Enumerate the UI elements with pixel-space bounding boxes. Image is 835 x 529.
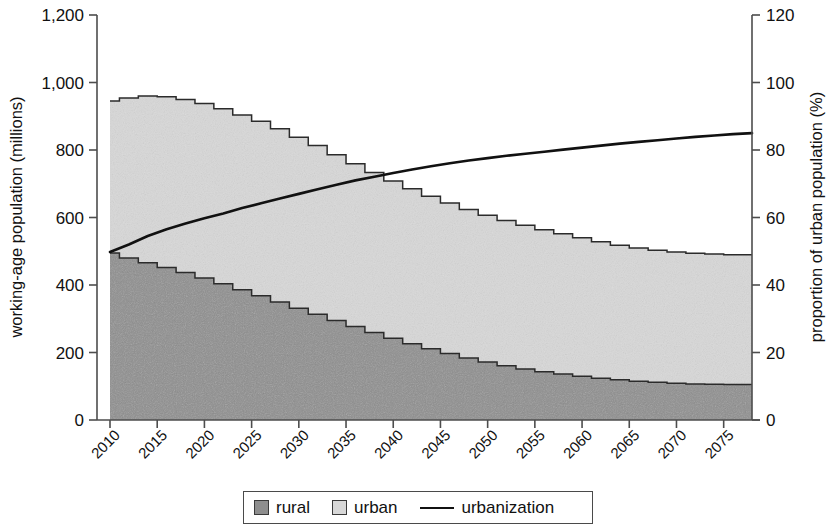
y-axis-right-tick-label: 80 xyxy=(766,141,785,160)
x-axis-tick-label: 2035 xyxy=(324,426,360,462)
y-axis-left: 02004006008001,0001,200 xyxy=(41,6,97,430)
y-axis-left-tick-label: 800 xyxy=(56,141,84,160)
chart-legend: rural urban urbanization xyxy=(243,491,593,524)
y-axis-left-tick-label: 0 xyxy=(75,411,84,430)
legend-label-urbanization: urbanization xyxy=(462,498,555,518)
x-axis-tick-label: 2075 xyxy=(701,426,737,462)
x-axis-tick-label: 2060 xyxy=(560,426,596,462)
legend-swatch-rural-icon xyxy=(254,500,269,515)
x-axis-tick-label: 2040 xyxy=(371,426,407,462)
x-axis-tick-label: 2065 xyxy=(607,426,643,462)
y-axis-right-tick-label: 60 xyxy=(766,209,785,228)
plot-area xyxy=(110,96,752,420)
x-axis-tick-label: 2045 xyxy=(418,426,454,462)
legend-item-rural: rural xyxy=(254,498,310,518)
y-axis-right-tick-label: 120 xyxy=(766,6,794,25)
y-axis-right-tick-label: 20 xyxy=(766,344,785,363)
y-axis-left-tick-label: 1,000 xyxy=(41,74,84,93)
y-axis-right-tick-label: 0 xyxy=(766,411,775,430)
y-axis-right-tick-label: 100 xyxy=(766,74,794,93)
y-axis-left-tick-label: 200 xyxy=(56,344,84,363)
stacked-area-chart: 02004006008001,0001,200 020406080100120 … xyxy=(0,0,835,490)
y-axis-right-title: proportion of urban population (%) xyxy=(807,92,825,342)
legend-label-rural: rural xyxy=(276,498,310,518)
legend-line-urbanization-icon xyxy=(420,507,454,509)
x-axis-tick-label: 2025 xyxy=(229,426,265,462)
legend-swatch-urban-icon xyxy=(332,500,347,515)
x-axis-tick-label: 2030 xyxy=(276,426,312,462)
y-axis-right-tick-label: 40 xyxy=(766,276,785,295)
x-axis-tick-label: 2070 xyxy=(654,426,690,462)
x-axis-tick-label: 2015 xyxy=(135,426,171,462)
x-axis-tick-label: 2010 xyxy=(88,426,124,462)
y-axis-right: 020406080100120 xyxy=(752,6,794,430)
y-axis-left-tick-label: 600 xyxy=(56,209,84,228)
x-axis-tick-label: 2050 xyxy=(465,426,501,462)
legend-label-urban: urban xyxy=(354,498,397,518)
legend-item-urbanization: urbanization xyxy=(420,498,555,518)
y-axis-left-tick-label: 1,200 xyxy=(41,6,84,25)
x-axis-tick-label: 2055 xyxy=(512,426,548,462)
chart-container: 02004006008001,0001,200 020406080100120 … xyxy=(0,0,835,529)
y-axis-left-tick-label: 400 xyxy=(56,276,84,295)
x-axis-tick-label: 2020 xyxy=(182,426,218,462)
legend-item-urban: urban xyxy=(332,498,397,518)
y-axis-left-title: working-age population (millions) xyxy=(7,96,25,338)
x-axis: 2010201520202025203020352040204520502055… xyxy=(88,420,760,462)
